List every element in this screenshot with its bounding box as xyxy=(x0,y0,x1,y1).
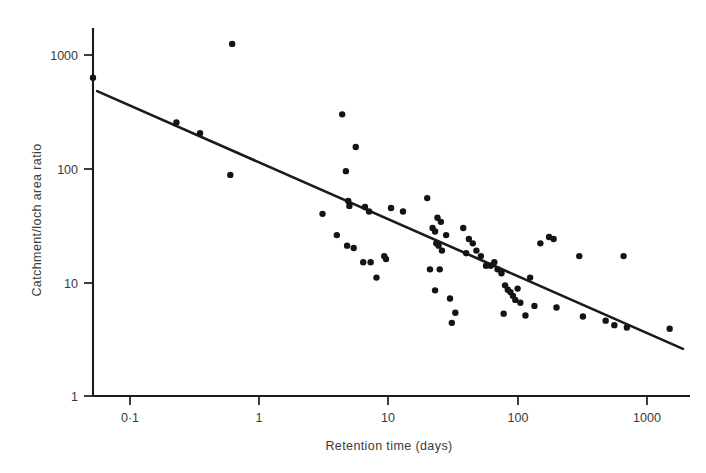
data-point xyxy=(366,208,372,214)
data-point xyxy=(438,219,444,225)
data-point xyxy=(624,324,630,330)
data-point xyxy=(367,259,373,265)
data-point xyxy=(602,317,608,323)
data-point xyxy=(576,253,582,259)
data-point xyxy=(383,256,389,262)
y-tick-label-100: 100 xyxy=(57,163,78,177)
x-axis-title: Retention time (days) xyxy=(325,439,452,453)
data-point xyxy=(432,287,438,293)
data-point xyxy=(447,295,453,301)
data-point xyxy=(517,300,523,306)
data-point xyxy=(227,172,233,178)
x-tick-label-1: 1 xyxy=(256,411,263,425)
data-point xyxy=(580,313,586,319)
x-tick-label-100: 100 xyxy=(508,411,529,425)
data-point xyxy=(498,270,504,276)
y-tick-label-1000: 1000 xyxy=(50,49,78,63)
data-point xyxy=(500,310,506,316)
data-point xyxy=(522,312,528,318)
regression-line xyxy=(97,91,683,349)
x-tick-label-1000: 1000 xyxy=(633,411,661,425)
data-point xyxy=(470,240,476,246)
data-point xyxy=(491,259,497,265)
data-point xyxy=(527,274,533,280)
data-point xyxy=(427,266,433,272)
data-point xyxy=(229,41,235,47)
data-point xyxy=(439,247,445,253)
data-point xyxy=(373,274,379,280)
data-point xyxy=(473,247,479,253)
data-point xyxy=(449,320,455,326)
scatter-plot-svg: 1000 100 10 1 0·1 1 10 100 1000 Retentio… xyxy=(0,0,706,473)
data-point xyxy=(553,304,559,310)
data-point xyxy=(346,203,352,209)
data-point xyxy=(478,253,484,259)
data-point xyxy=(173,119,179,125)
data-point xyxy=(531,303,537,309)
data-point xyxy=(353,144,359,150)
data-point xyxy=(537,240,543,246)
chart-figure: 1000 100 10 1 0·1 1 10 100 1000 Retentio… xyxy=(0,0,706,473)
data-point xyxy=(437,266,443,272)
y-axis-title: Catchment/loch area ratio xyxy=(30,143,44,296)
y-tick-label-10: 10 xyxy=(64,277,78,291)
data-point xyxy=(443,232,449,238)
scatter-points-group xyxy=(90,41,673,332)
data-point xyxy=(400,208,406,214)
data-point xyxy=(620,253,626,259)
data-point xyxy=(460,225,466,231)
data-point xyxy=(344,242,350,248)
data-point xyxy=(611,322,617,328)
data-point xyxy=(424,195,430,201)
data-point xyxy=(388,205,394,211)
x-axis-ticks xyxy=(130,396,647,405)
data-point xyxy=(319,211,325,217)
data-point xyxy=(550,236,556,242)
data-point xyxy=(514,285,520,291)
x-tick-label-0.1: 0·1 xyxy=(121,411,139,425)
data-point xyxy=(197,130,203,136)
data-point xyxy=(90,75,96,81)
data-point xyxy=(339,111,345,117)
data-point xyxy=(463,250,469,256)
data-point xyxy=(452,310,458,316)
x-tick-label-10: 10 xyxy=(381,411,395,425)
data-point xyxy=(666,326,672,332)
data-point xyxy=(360,259,366,265)
data-point xyxy=(334,232,340,238)
data-point xyxy=(432,228,438,234)
y-axis-ticks xyxy=(84,55,93,396)
data-point xyxy=(351,245,357,251)
data-point xyxy=(343,168,349,174)
y-tick-label-1: 1 xyxy=(71,390,78,404)
